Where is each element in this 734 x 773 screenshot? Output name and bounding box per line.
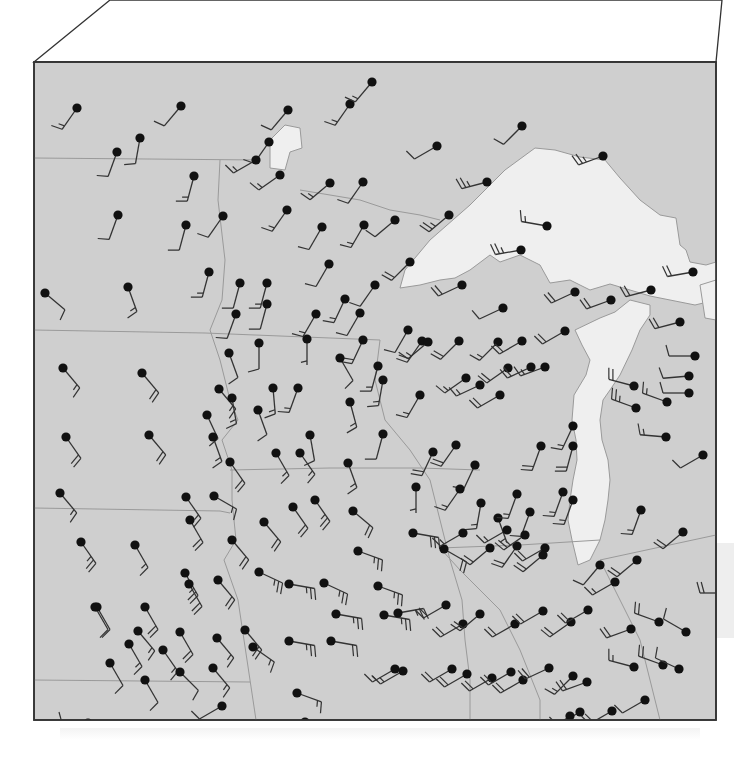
station-wind-barb — [300, 717, 329, 742]
station-wind-barb — [160, 730, 186, 751]
station-wind-barb — [265, 731, 292, 760]
map-frame-top-face — [34, 0, 722, 62]
wind-barb-map — [0, 0, 734, 773]
